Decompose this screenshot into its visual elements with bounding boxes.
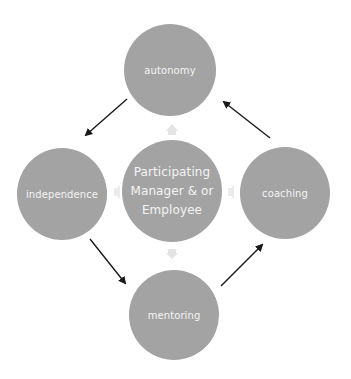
node-coaching: coaching [240,147,330,239]
hub-arrow-up-icon [166,124,178,135]
node-autonomy-label: autonomy [144,65,195,76]
center-label-line-2: Manager & or [130,182,213,201]
node-autonomy: autonomy [124,24,216,116]
diagram-canvas: autonomy independence Participating Mana… [0,0,351,379]
node-independence: independence [17,148,107,240]
node-mentoring-label: mentoring [148,310,201,321]
arrow-coaching-to-autonomy [224,102,270,138]
center-label-line-1: Participating [130,163,213,182]
hub-arrow-down-icon [166,249,178,259]
node-center-hub: Participating Manager & or Employee [122,140,222,242]
hub-arrow-right-icon [228,186,234,198]
center-label: Participating Manager & or Employee [130,163,213,220]
hub-arrow-left-icon [114,186,120,198]
node-independence-label: independence [26,189,98,200]
arrow-autonomy-to-independence [86,99,127,135]
center-label-line-3: Employee [130,201,213,220]
node-coaching-label: coaching [262,188,308,199]
arrow-mentoring-to-coaching [221,245,262,286]
arrow-independence-to-mentoring [90,239,125,283]
node-mentoring: mentoring [129,270,219,360]
